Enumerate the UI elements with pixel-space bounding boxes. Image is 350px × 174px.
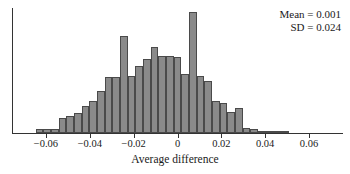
histogram-bar: [197, 76, 205, 134]
histogram-bar: [66, 116, 74, 134]
histogram-bar: [212, 101, 220, 134]
histogram-bar: [82, 106, 90, 134]
histogram-figure: Mean = 0.001 SD = 0.024 −0.06−0.04−0.020…: [0, 0, 350, 174]
histogram-bar: [135, 66, 143, 134]
histogram-bar: [189, 12, 197, 133]
x-axis-tick-label: 0.02: [212, 138, 230, 149]
histogram-bar: [258, 131, 266, 134]
histogram-bar: [143, 59, 151, 133]
histogram-bar: [51, 129, 59, 133]
histogram-bar: [36, 129, 44, 133]
histogram-bar: [151, 47, 159, 133]
x-axis-tick-label: 0.06: [300, 138, 318, 149]
histogram-bar: [166, 56, 174, 134]
plot-area: [12, 8, 343, 133]
histogram-bar: [227, 112, 235, 133]
x-axis-title: Average difference: [0, 153, 350, 165]
histogram-bar: [174, 57, 182, 133]
histogram-bar: [120, 36, 128, 134]
histogram-bar: [204, 81, 212, 134]
histogram-bar: [105, 77, 113, 133]
histogram-bar: [235, 108, 243, 133]
histogram-bar: [273, 131, 281, 133]
histogram-bar: [250, 129, 258, 133]
x-axis-tick-label: 0: [175, 138, 180, 149]
histogram-bar: [158, 56, 166, 134]
histogram-bar: [128, 76, 136, 134]
histogram-bar: [112, 77, 120, 133]
histogram-bar: [97, 91, 105, 134]
histogram-bar: [74, 113, 82, 133]
x-axis-tick-label: −0.06: [34, 138, 58, 149]
histogram-bar: [59, 118, 67, 133]
histogram-bar: [243, 128, 251, 133]
x-axis-tick-label: −0.02: [122, 138, 146, 149]
histogram-bar: [43, 129, 51, 133]
histogram-bar: [181, 74, 189, 133]
histogram-bar: [281, 131, 289, 133]
histogram-bar: [89, 101, 97, 134]
histogram-bar: [266, 131, 274, 134]
histogram-bar: [220, 103, 228, 133]
x-axis-tick-label: 0.04: [256, 138, 274, 149]
x-axis-tick-label: −0.04: [78, 138, 102, 149]
